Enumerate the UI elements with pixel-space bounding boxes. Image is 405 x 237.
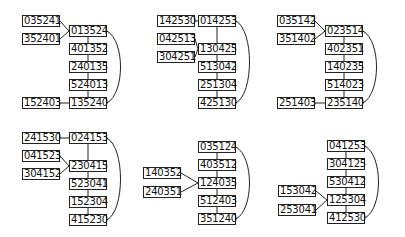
chain-node: 035124 [198,141,236,153]
chain-node: 152304 [69,196,107,208]
side-node: 140352 [143,167,181,179]
side-node: 241530 [22,132,60,144]
chain-node: 240135 [69,61,107,73]
side-node: 142530 [157,15,195,27]
chain-node: 403512 [198,159,236,171]
chain-node: 412530 [327,212,365,224]
side-node: 152403 [22,97,60,109]
chain-node: 124035 [198,177,236,189]
chain-node: 524013 [69,79,107,91]
chain-node: 135240 [69,97,107,109]
chain-node: 425130 [198,97,236,109]
chain-node: 251304 [198,79,236,91]
chain-node: 415230 [69,214,107,226]
chain-node: 140235 [325,61,363,73]
side-node: 352401 [22,33,60,45]
side-node: 153042 [278,185,316,197]
chain-node: 130425 [198,43,236,55]
side-node: 251403 [277,97,315,109]
side-node: 304152 [22,168,60,180]
graph-panel: 0241532304155230411523044152302415300415… [0,120,135,237]
chain-node: 351240 [198,213,236,225]
graph-panel: 0235144023511402355140232351400351423514… [270,0,405,118]
chain-node: 523041 [69,178,107,190]
chain-node: 530412 [327,176,365,188]
chain-node: 041253 [327,140,365,152]
side-node: 041523 [22,150,60,162]
graph-panel: 0142531304255130422513044251301425300425… [135,0,270,118]
chain-node: 230415 [69,160,107,172]
side-node: 035142 [277,15,315,27]
chain-node: 304125 [327,158,365,170]
chain-node: 512403 [198,195,236,207]
chain-node: 402351 [325,43,363,55]
chain-node: 014253 [198,15,236,27]
chain-node: 401352 [69,43,107,55]
chain-node: 514023 [325,79,363,91]
edges [0,120,135,237]
graph-panel: 0412533041255304121253044125301530422530… [270,120,405,237]
side-node: 304251 [157,51,195,63]
graph-panel: 0135244013522401355240131352400352413524… [0,0,135,118]
chain-node: 125304 [327,194,365,206]
chain-node: 023514 [325,25,363,37]
chain-node: 024153 [69,132,107,144]
side-node: 351402 [277,33,315,45]
edges [0,0,135,118]
graph-panel: 0351244035121240355124033512401403522403… [135,120,270,237]
chain-node: 235140 [325,97,363,109]
side-node: 035241 [22,15,60,27]
side-node: 042513 [157,33,195,45]
chain-node: 013524 [69,25,107,37]
side-node: 253041 [278,204,316,216]
side-node: 240351 [143,186,181,198]
chain-node: 513042 [198,61,236,73]
